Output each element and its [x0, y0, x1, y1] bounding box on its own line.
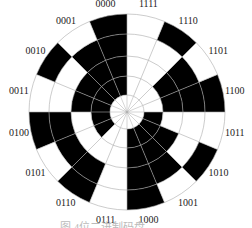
- disc-hub: [110, 95, 144, 129]
- sector-label: 0001: [56, 16, 76, 26]
- sector-label: 0010: [26, 46, 46, 56]
- sector-label: 1111: [139, 0, 158, 9]
- sector-label: 0110: [56, 198, 76, 208]
- sector-label: 1001: [178, 198, 198, 208]
- sector-label: 0000: [96, 0, 116, 9]
- sector-label: 1110: [179, 16, 198, 26]
- sector-label: 0101: [26, 168, 46, 178]
- sector-label: 1101: [208, 46, 228, 56]
- sector-label: 1010: [208, 168, 228, 178]
- figure-caption: 图 4位二进制码盘: [60, 222, 145, 228]
- code-disc: [0, 0, 252, 228]
- sector-label: 1011: [225, 128, 245, 138]
- sector-label: 0100: [9, 128, 29, 138]
- sector-label: 1100: [225, 86, 245, 96]
- sector-label: 0011: [9, 86, 29, 96]
